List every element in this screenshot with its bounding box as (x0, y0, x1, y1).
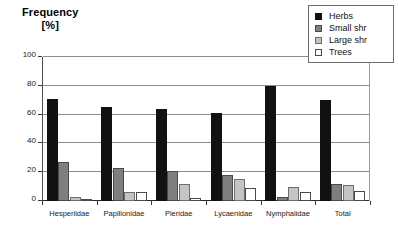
x-category-label-lycaenidae: Lycaenidae (206, 209, 261, 218)
bar-group-hesperiidae (42, 57, 97, 201)
y-tick-label: 60 (27, 108, 36, 117)
bar-papilionidae-large-shr (124, 192, 135, 201)
bar-nymphalidae-large-shr (288, 187, 299, 201)
bars-layer (42, 57, 370, 201)
x-category-label-total: Total (315, 209, 370, 218)
bar-hesperiidae-herbs (47, 99, 58, 201)
bar-lycaenidae-trees (245, 188, 256, 201)
y-tick-0: 0 (0, 200, 42, 201)
bar-nymphalidae-trees (300, 192, 311, 201)
x-axis: HesperiidaePapilionidaePieridaeLycaenida… (42, 201, 370, 231)
chart-screenshot: Frequency [%] 020406080100 HesperiidaePa… (0, 0, 398, 231)
legend: Herbs Small shr Large shr Trees (308, 5, 394, 63)
bar-nymphalidae-herbs (265, 86, 276, 201)
bar-pieridae-herbs (156, 109, 167, 201)
trees-swatch-icon (315, 49, 322, 56)
bar-pieridae-large-shr (179, 184, 190, 201)
x-category-label-pieridae: Pieridae (151, 209, 206, 218)
y-axis: 020406080100 (0, 57, 42, 201)
bar-group-lycaenidae (206, 57, 261, 201)
x-tick (42, 201, 43, 205)
bar-group-total (315, 57, 370, 201)
y-tick-label: 20 (27, 165, 36, 174)
x-category-label-nymphalidae: Nymphalidae (261, 209, 316, 218)
y-tick-80: 80 (0, 85, 42, 86)
bar-papilionidae-herbs (101, 107, 112, 201)
y-tick-100: 100 (0, 56, 42, 57)
x-tick (370, 201, 371, 205)
legend-item-label: Large shr (329, 35, 367, 45)
chart-title: Frequency [%] (22, 6, 79, 32)
bar-group-pieridae (151, 57, 206, 201)
legend-item-label: Small shr (329, 23, 367, 33)
y-tick-label: 40 (27, 136, 36, 145)
legend-item[interactable]: Large shr (315, 34, 388, 46)
y-tick-40: 40 (0, 142, 42, 143)
x-tick (151, 201, 152, 205)
bar-total-trees (354, 191, 365, 201)
x-tick (315, 201, 316, 205)
legend-item[interactable]: Trees (315, 46, 388, 58)
bar-hesperiidae-small-shr (58, 162, 69, 201)
bar-pieridae-small-shr (167, 171, 178, 201)
chart-title-line-2: [%] (22, 19, 79, 32)
bar-group-papilionidae (97, 57, 152, 201)
chart-title-line-1: Frequency (22, 6, 79, 19)
x-tick (206, 201, 207, 205)
bar-papilionidae-trees (136, 192, 147, 201)
bar-lycaenidae-large-shr (234, 179, 245, 201)
x-tick (261, 201, 262, 205)
y-tick-label: 80 (27, 79, 36, 88)
bar-total-herbs (320, 100, 331, 201)
legend-item[interactable]: Herbs (315, 10, 388, 22)
bar-lycaenidae-herbs (211, 113, 222, 201)
y-tick-label: 0 (32, 194, 36, 203)
bar-papilionidae-small-shr (113, 168, 124, 201)
y-tick-60: 60 (0, 114, 42, 115)
legend-item[interactable]: Small shr (315, 22, 388, 34)
x-tick (97, 201, 98, 205)
large-shr-swatch-icon (315, 37, 322, 44)
bar-group-nymphalidae (261, 57, 316, 201)
y-tick-label: 100 (23, 50, 36, 59)
bar-total-large-shr (343, 185, 354, 201)
bar-lycaenidae-small-shr (222, 175, 233, 201)
legend-item-label: Herbs (329, 11, 353, 21)
y-tick-20: 20 (0, 171, 42, 172)
x-category-label-hesperiidae: Hesperiidae (42, 209, 97, 218)
herbs-swatch-icon (315, 13, 322, 20)
small-shr-swatch-icon (315, 25, 322, 32)
x-category-label-papilionidae: Papilionidae (97, 209, 152, 218)
legend-item-label: Trees (329, 47, 352, 57)
bar-total-small-shr (331, 184, 342, 201)
